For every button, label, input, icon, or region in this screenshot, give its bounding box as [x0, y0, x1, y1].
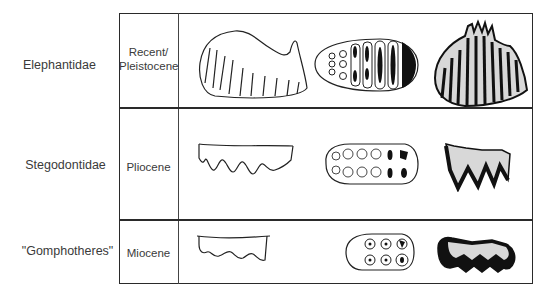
elephant-molar-lateral-drawing	[195, 28, 310, 103]
row-divider-2	[119, 219, 533, 221]
epoch-label-miocene: Miocene	[119, 246, 178, 260]
elephant-molar-section-drawing	[430, 18, 530, 110]
epoch-label-recent-pleistocene: Recent/ Pleistocene	[119, 45, 178, 73]
epoch-line-1: Recent/	[119, 45, 178, 59]
epoch-column-divider	[178, 13, 179, 284]
stegodon-molar-occlusal-drawing	[320, 140, 420, 188]
family-label-elephantidae: Elephantidae	[2, 58, 117, 72]
gomphothere-molar-occlusal-drawing	[342, 230, 417, 274]
family-label-stegodontidae: Stegodontidae	[8, 158, 123, 172]
elephant-molar-occlusal-drawing	[310, 36, 420, 94]
stegodon-molar-section-drawing	[442, 140, 514, 192]
gomphothere-molar-lateral-drawing	[195, 232, 275, 267]
stegodon-molar-lateral-drawing	[195, 138, 300, 178]
gomphothere-molar-section-drawing	[432, 232, 520, 276]
epoch-line-2: Pleistocene	[119, 59, 178, 73]
epoch-label-pliocene: Pliocene	[119, 160, 178, 174]
family-label-gomphotheres: "Gomphotheres"	[10, 244, 125, 258]
